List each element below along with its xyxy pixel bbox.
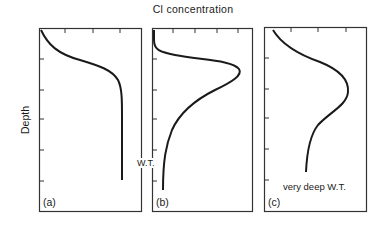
panel-a-label: (a) [43,196,56,208]
panel-b-label: (b) [156,196,169,208]
panel-c-ticks [265,28,347,181]
very-deep-water-table-label: very deep W.T. [283,181,346,192]
panel-b-curve [154,30,240,190]
water-table-label: W.T. [136,158,156,168]
panel-b [153,29,253,212]
profile-plots [0,0,386,227]
panel-a-frame [40,29,142,212]
panel-c-label: (c) [268,196,280,208]
panel-a [40,29,142,212]
panel-a-ticks [40,29,121,182]
panel-b-frame [153,29,253,212]
panel-c-curve [273,30,348,172]
panel-a-curve [41,30,122,180]
